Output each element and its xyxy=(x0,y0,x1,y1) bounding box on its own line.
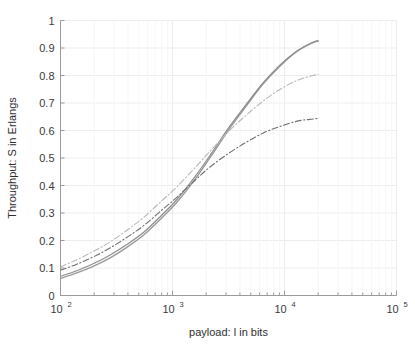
x-tick-labels: 102103104105 xyxy=(50,300,407,315)
chart-canvas: 102103104105 00.10.20.30.40.50.60.70.80.… xyxy=(0,0,415,348)
svg-text:4: 4 xyxy=(291,300,295,309)
x-tick-label: 105 xyxy=(386,300,407,315)
y-tick-label: 1 xyxy=(48,15,54,27)
y-tick-label: 0 xyxy=(48,290,54,302)
x-axis-label: payload: l in bits xyxy=(189,326,268,338)
svg-text:2: 2 xyxy=(67,300,71,309)
chart-figure: 102103104105 00.10.20.30.40.50.60.70.80.… xyxy=(0,0,415,348)
y-tick-label: 0.8 xyxy=(39,70,54,82)
x-tick-label: 103 xyxy=(162,300,183,315)
svg-text:10: 10 xyxy=(50,303,62,315)
y-tick-labels: 00.10.20.30.40.50.60.70.80.91 xyxy=(39,15,54,302)
y-tick-label: 0.5 xyxy=(39,152,54,164)
y-axis-label: Throughput: S in Erlangs xyxy=(6,97,18,219)
y-tick-label: 0.7 xyxy=(39,97,54,109)
y-tick-label: 0.1 xyxy=(39,262,54,274)
x-tick-label: 102 xyxy=(50,300,71,315)
y-axis-ticks xyxy=(61,21,65,296)
svg-text:10: 10 xyxy=(386,303,398,315)
svg-text:10: 10 xyxy=(162,303,174,315)
x-tick-label: 104 xyxy=(274,300,295,315)
y-tick-label: 0.3 xyxy=(39,207,54,219)
y-tick-label: 0.2 xyxy=(39,235,54,247)
y-tick-label: 0.4 xyxy=(39,180,54,192)
y-tick-label: 0.6 xyxy=(39,125,54,137)
svg-text:3: 3 xyxy=(179,300,183,309)
svg-text:10: 10 xyxy=(274,303,286,315)
y-tick-label: 0.9 xyxy=(39,42,54,54)
svg-text:5: 5 xyxy=(403,300,407,309)
x-axis-ticks xyxy=(61,291,397,296)
